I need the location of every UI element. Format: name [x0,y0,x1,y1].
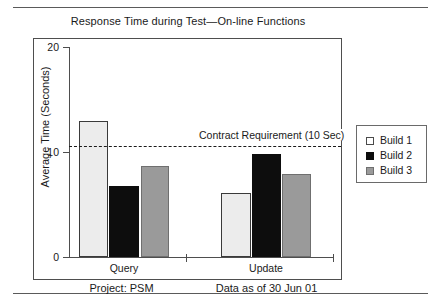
y-tick-label-0: 0 [34,252,59,263]
legend-item-build-1[interactable]: Build 1 [366,133,426,148]
y-tick-mark-20 [63,47,70,48]
y-tick-label-10: 10 [34,147,59,158]
bar-update-build-2[interactable] [252,154,281,257]
footer-project: Project: PSM [59,282,184,294]
bar-update-build-3[interactable] [282,174,311,257]
chart-legend: Build 1 Build 2 Build 3 [356,125,427,183]
y-axis-title: Average Time (Seconds) [39,32,51,222]
y-tick-mark-10 [63,152,70,153]
legend-swatch-icon-build-2 [366,152,374,160]
bar-query-build-3[interactable] [141,166,169,257]
legend-swatch-icon-build-1 [366,137,374,145]
legend-swatch-icon-build-3 [366,167,374,175]
contract-requirement-line [69,146,341,147]
chart-title: Response Time during Test—On-line Functi… [33,15,343,27]
legend-label-build-2: Build 2 [380,150,412,161]
bar-update-build-1[interactable] [221,193,251,257]
x-group-label-query: Query [79,262,169,274]
x-axis-line [69,257,334,258]
contract-requirement-label: Contract Requirement (10 Sec) [197,129,346,141]
chart-plot-panel: Average Time (Seconds) 20 10 0 Contract … [33,38,342,280]
x-tick-axis-end [333,254,334,262]
legend-label-build-3: Build 3 [380,165,412,176]
legend-item-build-2[interactable]: Build 2 [366,148,426,163]
x-group-label-update: Update [221,262,311,274]
x-tick-group-separator [186,254,187,262]
bar-query-build-1[interactable] [79,121,108,257]
footer-data-date: Data as of 30 Jun 01 [194,282,339,294]
bar-query-build-2[interactable] [109,186,139,257]
page-rule-top [13,7,428,8]
legend-item-build-3[interactable]: Build 3 [366,163,426,178]
legend-label-build-1: Build 1 [380,135,412,146]
y-tick-label-20: 20 [34,42,59,53]
